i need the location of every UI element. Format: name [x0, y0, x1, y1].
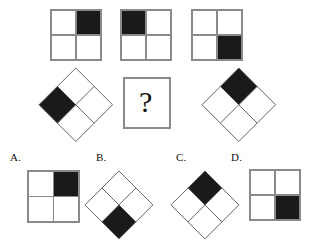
puzzle-canvas: ? A. B. C. D.: [0, 0, 312, 249]
stem-figure-3: [190, 8, 244, 62]
option-label-c: C.: [176, 152, 187, 163]
stem-figure-5: [199, 65, 279, 145]
stem-figure-4: [36, 65, 116, 145]
stem-figure-2: [119, 8, 173, 62]
option-label-a: A.: [10, 152, 21, 163]
option-figure-b[interactable]: [82, 168, 156, 242]
option-figure-a[interactable]: [26, 169, 81, 224]
stem-figure-1: [49, 8, 103, 62]
option-figure-c[interactable]: [168, 168, 242, 242]
option-figure-d[interactable]: [248, 168, 302, 222]
question-mark: ?: [139, 87, 152, 117]
option-label-b: B.: [96, 152, 107, 163]
option-label-d: D.: [231, 152, 242, 163]
